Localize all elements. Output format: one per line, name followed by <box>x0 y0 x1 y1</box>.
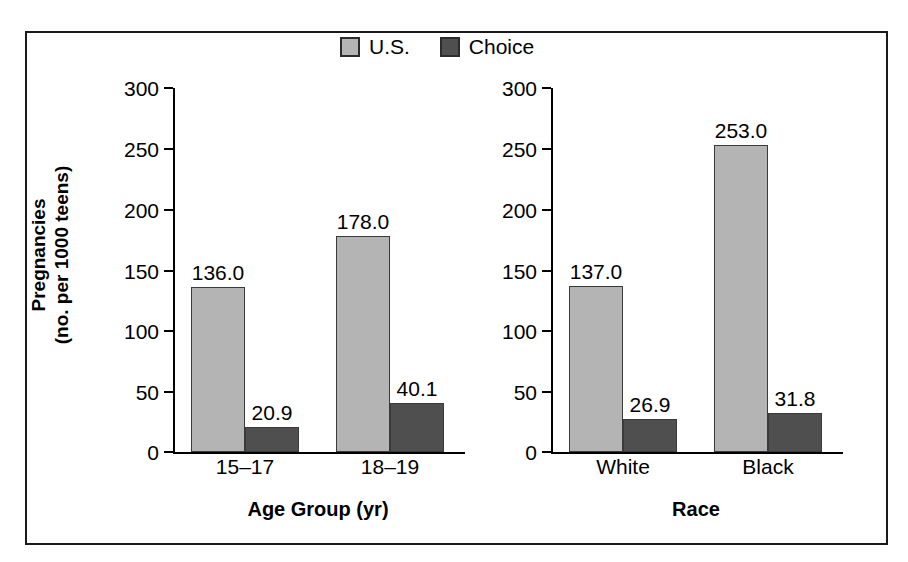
y-ticklabel-250-age: 250 <box>124 139 159 160</box>
legend-label-choice: Choice <box>469 36 534 57</box>
chart-legend: U.S. Choice <box>340 36 534 57</box>
y-tick-100-race <box>542 330 551 332</box>
bar-group-18-19: 178.0 40.1 <box>336 88 444 452</box>
bar-value-choice-15-17: 20.9 <box>252 402 293 423</box>
y-tick-0-age <box>164 451 173 453</box>
bar-us-black[interactable]: 253.0 <box>714 145 768 452</box>
legend-item-us: U.S. <box>340 36 410 57</box>
legend-item-choice: Choice <box>440 36 534 57</box>
y-tick-150-race <box>542 270 551 272</box>
y-axis-title-line1: Pregnancies <box>28 199 49 312</box>
x-axis-title-age-group: Age Group (yr) <box>247 498 388 521</box>
bar-choice-black[interactable]: 31.8 <box>768 413 822 452</box>
y-tick-100-age <box>164 330 173 332</box>
y-tick-300-race <box>542 87 551 89</box>
y-axis-title: Pregnancies (no. per 1000 teens) <box>27 166 73 344</box>
y-axis-title-wrap: Pregnancies (no. per 1000 teens) <box>22 105 78 405</box>
x-axis-line-race <box>551 452 843 454</box>
y-ticklabel-250-race: 250 <box>502 139 537 160</box>
bar-choice-15-17[interactable]: 20.9 <box>245 427 299 452</box>
bars-race: 137.0 26.9 253.0 31.8 <box>553 88 841 452</box>
y-axis-title-line2: (no. per 1000 teens) <box>51 166 72 344</box>
y-ticklabel-300-age: 300 <box>124 78 159 99</box>
y-tick-150-age <box>164 270 173 272</box>
x-category-label-18-19: 18–19 <box>361 456 419 477</box>
y-ticklabel-0-race: 0 <box>525 442 537 463</box>
y-ticklabel-150-age: 150 <box>124 261 159 282</box>
bar-value-choice-18-19: 40.1 <box>397 378 438 399</box>
y-ticklabel-150-race: 150 <box>502 261 537 282</box>
y-ticklabel-100-age: 100 <box>124 321 159 342</box>
bar-us-15-17[interactable]: 136.0 <box>191 287 245 452</box>
bar-us-white[interactable]: 137.0 <box>569 286 623 452</box>
bar-us-18-19[interactable]: 178.0 <box>336 236 390 452</box>
bar-group-black: 253.0 31.8 <box>714 88 822 452</box>
x-axis-title-race: Race <box>672 498 720 521</box>
y-tick-200-age <box>164 209 173 211</box>
x-category-label-15-17: 15–17 <box>216 456 274 477</box>
y-tick-50-age <box>164 391 173 393</box>
bar-value-choice-black: 31.8 <box>775 388 816 409</box>
bar-value-us-18-19: 178.0 <box>337 211 390 232</box>
y-ticklabel-200-age: 200 <box>124 200 159 221</box>
panel-age-group: 300 250 200 150 100 50 0 136.0 20.9 178.… <box>173 88 463 452</box>
y-tick-50-race <box>542 391 551 393</box>
bars-age: 136.0 20.9 178.0 40.1 <box>175 88 463 452</box>
bar-value-us-black: 253.0 <box>715 120 768 141</box>
legend-label-us: U.S. <box>369 36 410 57</box>
bar-value-us-white: 137.0 <box>570 261 623 282</box>
y-ticklabel-300-race: 300 <box>502 78 537 99</box>
x-axis-line-age <box>173 452 465 454</box>
bar-choice-18-19[interactable]: 40.1 <box>390 403 444 452</box>
y-ticklabel-50-age: 50 <box>136 382 159 403</box>
bar-group-15-17: 136.0 20.9 <box>191 88 299 452</box>
x-category-label-white: White <box>596 456 650 477</box>
bar-choice-white[interactable]: 26.9 <box>623 419 677 452</box>
y-ticklabel-0-age: 0 <box>147 442 159 463</box>
y-tick-300-age <box>164 87 173 89</box>
y-ticklabel-200-race: 200 <box>502 200 537 221</box>
panel-race: 300 250 200 150 100 50 0 137.0 26.9 253.… <box>551 88 841 452</box>
y-tick-0-race <box>542 451 551 453</box>
y-ticklabel-100-race: 100 <box>502 321 537 342</box>
bar-value-choice-white: 26.9 <box>630 394 671 415</box>
legend-swatch-us-icon <box>340 37 360 57</box>
y-tick-200-race <box>542 209 551 211</box>
figure-container: U.S. Choice Pregnancies (no. per 1000 te… <box>0 0 908 562</box>
bar-group-white: 137.0 26.9 <box>569 88 677 452</box>
x-category-label-black: Black <box>742 456 793 477</box>
legend-swatch-choice-icon <box>440 37 460 57</box>
y-ticklabel-50-race: 50 <box>514 382 537 403</box>
bar-value-us-15-17: 136.0 <box>192 262 245 283</box>
y-tick-250-age <box>164 148 173 150</box>
y-tick-250-race <box>542 148 551 150</box>
